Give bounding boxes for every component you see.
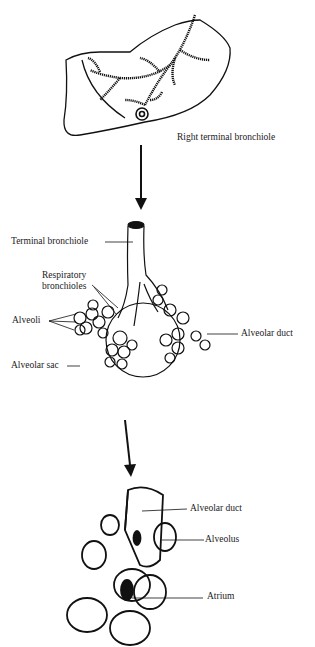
down-arrow-2 <box>124 420 136 477</box>
label-alveolus: Alveolus <box>205 534 239 545</box>
label-respiratory-bronchioles-line2: bronchioles <box>42 281 86 292</box>
bronchiole-terminal-marker <box>136 108 148 120</box>
label-alveoli: Alveoli <box>12 315 41 326</box>
down-arrow-1 <box>135 145 147 210</box>
label-alveolar-duct-panel3: Alveolar duct <box>190 503 242 514</box>
bronchial-tree-icon <box>88 15 210 105</box>
leader-lines-panel-3 <box>132 509 204 598</box>
label-alveolar-duct-panel2: Alveolar duct <box>241 328 293 339</box>
alveolar-detail-illustration <box>67 487 176 645</box>
label-atrium: Atrium <box>207 591 234 602</box>
label-terminal-bronchiole: Terminal bronchiole <box>11 236 88 247</box>
label-respiratory-bronchioles-line1: Respiratory <box>42 270 86 281</box>
label-alveolar-sac: Alveolar sac <box>11 360 59 371</box>
bronchiole-tree-illustration <box>74 222 210 378</box>
label-right-terminal-bronchiole: Right terminal bronchiole <box>177 132 275 143</box>
diagram-canvas <box>0 0 315 647</box>
